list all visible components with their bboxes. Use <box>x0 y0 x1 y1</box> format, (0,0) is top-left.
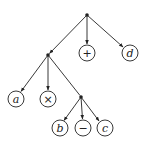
edges <box>21 15 123 121</box>
branch-node-1 <box>46 53 50 57</box>
label-plus: + <box>82 47 91 60</box>
label-d: d <box>126 47 133 60</box>
branch-node-2 <box>79 95 83 99</box>
edge-n1-a <box>21 55 48 92</box>
expression-tree-diagram: + d a × b − c <box>0 0 145 154</box>
label-b: b <box>56 122 63 135</box>
label-a: a <box>13 93 20 106</box>
branch-node-root <box>85 13 89 17</box>
edge-n2-c <box>81 97 99 121</box>
label-times: × <box>43 93 52 106</box>
label-c: c <box>102 122 108 135</box>
edge-root-d <box>87 15 123 47</box>
edge-n1-n2 <box>48 55 80 96</box>
edge-n2-b <box>64 97 81 121</box>
label-minus: − <box>78 122 87 135</box>
edge-n2-minus <box>81 97 83 119</box>
